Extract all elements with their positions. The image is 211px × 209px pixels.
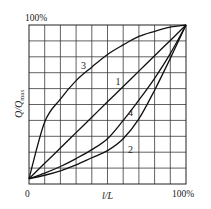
x-max-tick-label: 100% <box>172 189 194 199</box>
valve-flow-characteristics-chart: 1234 100% 0 100% l/L Q/Qmax <box>0 0 211 209</box>
curve-label-1: 1 <box>115 76 120 87</box>
y-axis-label: Q/Qmax <box>13 89 25 118</box>
curve-label-2: 2 <box>128 144 133 155</box>
curve-label-3: 3 <box>81 60 86 71</box>
curve-labels: 1234 <box>81 60 133 155</box>
y-axis-label-sub: max <box>18 89 25 101</box>
svg-text:Q/Qmax: Q/Qmax <box>13 89 25 118</box>
curve-label-4: 4 <box>128 107 133 118</box>
origin-tick-label: 0 <box>25 189 30 199</box>
y-max-tick-label: 100% <box>25 13 47 23</box>
x-axis-label: l/L <box>102 190 114 201</box>
y-axis-label-main: Q/Q <box>13 100 24 118</box>
